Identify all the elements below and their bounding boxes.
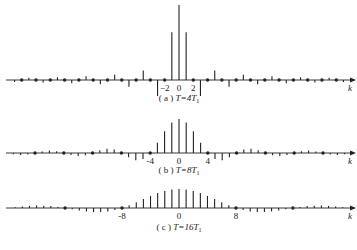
- zero-sample-dot: [235, 151, 238, 154]
- tick-label: 0: [177, 211, 182, 221]
- tick-label: -4: [146, 156, 154, 166]
- zero-sample-dot: [120, 78, 123, 81]
- zero-sample-dot: [120, 151, 123, 154]
- zero-sample-dot: [292, 78, 295, 81]
- zero-sample-dot: [234, 206, 237, 209]
- zero-sample-dot: [321, 151, 324, 154]
- zero-sample-dot: [206, 151, 209, 154]
- zero-sample-dot: [263, 78, 266, 81]
- zero-sample-dot: [264, 151, 267, 154]
- tick-label: 0: [177, 83, 182, 93]
- axis-arrow-icon: [350, 206, 356, 211]
- zero-sample-dot: [220, 78, 223, 81]
- zero-sample-dot: [149, 151, 152, 154]
- zero-sample-dot: [149, 78, 152, 81]
- zero-sample-dot: [63, 78, 66, 81]
- zero-sample-dot: [306, 78, 309, 81]
- zero-sample-dot: [291, 206, 294, 209]
- tick-label: 8: [234, 211, 239, 221]
- zero-sample-dot: [134, 78, 137, 81]
- zero-sample-dot: [293, 151, 296, 154]
- zero-sample-dot: [91, 151, 94, 154]
- zero-sample-dot: [120, 206, 123, 209]
- panel-caption: ( c ) T=16T1: [157, 222, 202, 233]
- fourier-spectrum-figure: k−202( a ) T=4T1k-404( b ) T=8T1k-808( c…: [0, 0, 357, 250]
- panel-caption: ( b ) T=8T1: [159, 165, 200, 176]
- zero-sample-dot: [92, 78, 95, 81]
- zero-sample-dot: [277, 78, 280, 81]
- zero-sample-dot: [77, 78, 80, 81]
- zero-sample-dot: [62, 151, 65, 154]
- zero-sample-dot: [206, 78, 209, 81]
- zero-sample-dot: [33, 151, 36, 154]
- tick-label: -8: [118, 211, 126, 221]
- axis-arrow-icon: [350, 78, 356, 83]
- panel-caption: ( a ) T=4T1: [159, 93, 199, 104]
- zero-sample-dot: [335, 78, 338, 81]
- tick-label: 4: [206, 156, 211, 166]
- axis-arrow-icon: [350, 151, 356, 156]
- zero-sample-dot: [34, 78, 37, 81]
- zero-sample-dot: [249, 78, 252, 81]
- axis-label: k: [348, 83, 353, 93]
- zero-sample-dot: [235, 78, 238, 81]
- zero-sample-dot: [20, 78, 23, 81]
- tick-label: 2: [191, 83, 196, 93]
- axis-label: k: [348, 156, 353, 166]
- zero-sample-dot: [192, 78, 195, 81]
- zero-sample-dot: [63, 206, 66, 209]
- zero-sample-dot: [163, 78, 166, 81]
- zero-sample-dot: [106, 78, 109, 81]
- tick-label: −2: [160, 83, 170, 93]
- zero-sample-dot: [320, 78, 323, 81]
- axis-label: k: [348, 211, 353, 221]
- zero-sample-dot: [49, 78, 52, 81]
